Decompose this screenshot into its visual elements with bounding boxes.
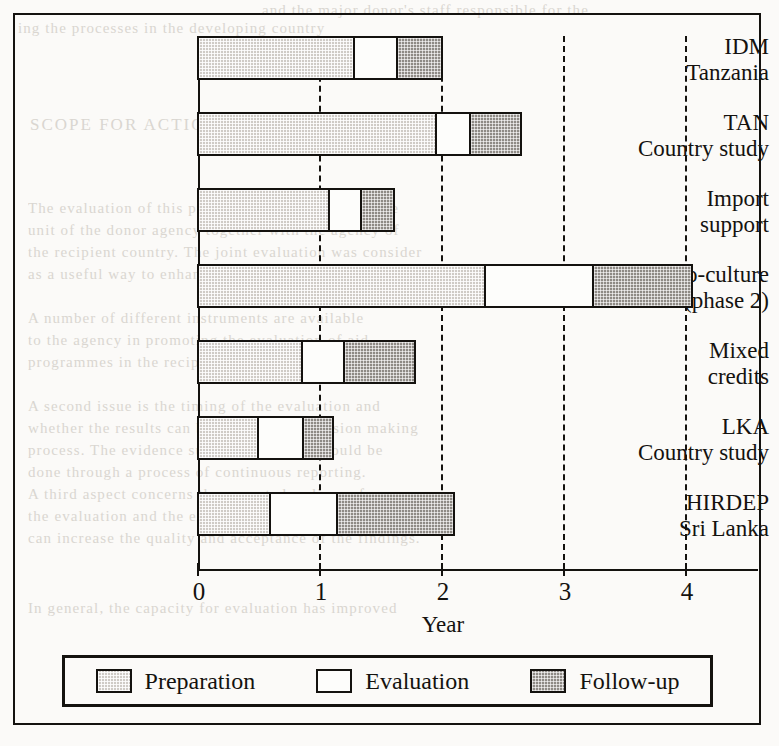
- bar-segment-preparation[interactable]: [197, 340, 303, 384]
- bar-segment-evaluation[interactable]: [353, 36, 398, 80]
- bar-segment-evaluation[interactable]: [435, 112, 471, 156]
- legend-label-evaluation: Evaluation: [365, 668, 469, 695]
- chart-legend: Preparation Evaluation Follow-up: [62, 655, 713, 707]
- bar-segment-evaluation[interactable]: [484, 264, 595, 308]
- bar-row: [0, 264, 779, 308]
- bar-row: [0, 492, 779, 536]
- x-tick-2: [441, 563, 443, 576]
- x-tick-label-3: 3: [545, 578, 585, 606]
- bar-segment-evaluation[interactable]: [269, 492, 338, 536]
- x-tick-4: [685, 563, 687, 576]
- legend-item-preparation[interactable]: Preparation: [96, 668, 256, 695]
- bar-segment-follow-up[interactable]: [336, 492, 455, 536]
- bar-row: [0, 188, 779, 232]
- bar-segment-follow-up[interactable]: [360, 188, 395, 232]
- bar-segment-follow-up[interactable]: [396, 36, 443, 80]
- legend-label-follow-up: Follow-up: [579, 668, 679, 695]
- x-tick-label-1: 1: [301, 578, 341, 606]
- scanned-chart-page: and the major donor's staff responsible …: [0, 0, 779, 746]
- bar-segment-preparation[interactable]: [197, 492, 271, 536]
- bar-segment-evaluation[interactable]: [301, 340, 346, 384]
- bar-row: [0, 416, 779, 460]
- bar-segment-preparation[interactable]: [197, 416, 259, 460]
- bar-row: [0, 340, 779, 384]
- bar-row: [0, 112, 779, 156]
- x-tick-0: [197, 563, 199, 576]
- bar-segment-follow-up[interactable]: [592, 264, 693, 308]
- x-tick-label-4: 4: [667, 578, 707, 606]
- bar-segment-preparation[interactable]: [197, 36, 355, 80]
- legend-item-follow-up[interactable]: Follow-up: [530, 668, 679, 695]
- bar-segment-follow-up[interactable]: [343, 340, 416, 384]
- x-tick-label-0: 0: [179, 578, 219, 606]
- bar-segment-preparation[interactable]: [197, 264, 486, 308]
- x-tick-label-2: 2: [423, 578, 463, 606]
- bar-segment-evaluation[interactable]: [257, 416, 304, 460]
- x-axis-line: [198, 569, 758, 571]
- legend-item-evaluation[interactable]: Evaluation: [316, 668, 469, 695]
- x-axis-title: Year: [198, 612, 688, 638]
- x-tick-1: [319, 563, 321, 576]
- preparation-swatch-icon: [96, 669, 132, 693]
- bar-segment-preparation[interactable]: [197, 112, 437, 156]
- x-tick-3: [563, 563, 565, 576]
- bar-row: [0, 36, 779, 80]
- evaluation-swatch-icon: [316, 669, 352, 693]
- bar-segment-preparation[interactable]: [197, 188, 330, 232]
- bar-segment-evaluation[interactable]: [328, 188, 363, 232]
- legend-label-preparation: Preparation: [145, 668, 256, 695]
- follow-up-swatch-icon: [530, 669, 566, 693]
- bar-segment-follow-up[interactable]: [469, 112, 522, 156]
- bar-segment-follow-up[interactable]: [302, 416, 335, 460]
